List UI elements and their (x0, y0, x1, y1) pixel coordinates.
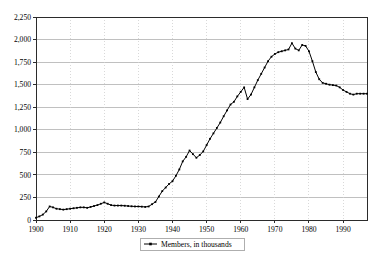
series-data-point (363, 93, 365, 95)
series-data-point (107, 203, 109, 205)
series-data-point (213, 132, 215, 134)
series-data-point (274, 53, 276, 55)
series-data-point (69, 208, 71, 210)
x-axis-tick-label: 1930 (131, 225, 146, 234)
y-axis-tick-label: 2,250 (14, 13, 31, 22)
series-data-point (134, 206, 136, 208)
series-data-point (148, 206, 150, 208)
series-data-point (59, 208, 61, 210)
series-data-point (216, 127, 218, 129)
series-data-point (161, 190, 163, 192)
series-data-point (223, 115, 225, 117)
series-data-point (253, 86, 255, 88)
x-axis-tick-label: 1980 (301, 225, 316, 234)
series-data-point (250, 94, 252, 96)
series-data-point (240, 91, 242, 93)
series-data-point (315, 71, 317, 73)
series-data-point (192, 153, 194, 155)
series-data-point (342, 89, 344, 91)
x-axis-tick-label: 1970 (267, 225, 282, 234)
series-data-point (366, 93, 368, 95)
series-data-point (178, 169, 180, 171)
series-data-point (100, 203, 102, 205)
series-data-point (206, 144, 208, 146)
series-data-point (308, 50, 310, 52)
series-data-point (49, 206, 51, 208)
series-data-point (39, 215, 41, 217)
series-data-point (352, 94, 354, 96)
series-data-point (236, 96, 238, 98)
series-data-point (155, 201, 157, 203)
series-data-point (144, 206, 146, 208)
y-axis-tick-label: 750 (20, 148, 32, 157)
series-data-point (264, 67, 266, 69)
series-data-point (56, 208, 58, 210)
series-data-point (45, 211, 47, 213)
series-data-point (305, 45, 307, 47)
series-data-point (346, 91, 348, 93)
series-data-point (325, 83, 327, 85)
x-axis-tick-label: 1950 (199, 225, 214, 234)
series-data-point (141, 206, 143, 208)
series-data-point (356, 93, 358, 95)
series-data-point (131, 205, 133, 207)
series-data-point (117, 205, 119, 207)
y-axis-tick-label: 500 (20, 171, 32, 180)
series-data-point (291, 42, 293, 44)
series-data-point (124, 205, 126, 207)
series-data-point (90, 206, 92, 208)
series-data-point (329, 84, 331, 86)
series-data-point (230, 104, 232, 106)
series-data-point (151, 203, 153, 205)
series-data-point (195, 157, 197, 159)
series-data-point (281, 50, 283, 52)
series-data-point (83, 206, 85, 208)
series-data-point (175, 175, 177, 177)
series-data-point (165, 187, 167, 189)
series-data-point (127, 205, 129, 207)
series-data-point (76, 207, 78, 209)
x-axis-ticks: 1900191019201930194019501960197019801990 (28, 220, 351, 234)
series-data-point (257, 79, 259, 81)
series-data-point (202, 151, 204, 153)
series-data-point (189, 150, 191, 152)
series-data-point (298, 49, 300, 51)
series-data-point (301, 44, 303, 46)
y-axis-tick-label: 1,250 (14, 103, 31, 112)
series-data-point (267, 60, 269, 62)
y-axis-tick-label: 1,750 (14, 58, 31, 67)
series-data-point (172, 180, 174, 182)
series-data-point (66, 208, 68, 210)
y-axis-tick-label: 2,000 (14, 35, 31, 44)
series-data-point (226, 109, 228, 111)
series-data-point (288, 49, 290, 51)
series-data-point (199, 154, 201, 156)
series-data-point (233, 101, 235, 103)
series-data-point (114, 205, 116, 207)
y-axis-tick-label: 250 (20, 193, 32, 202)
line-chart: 02505007501,0001,2501,5001,7502,0002,250… (0, 0, 380, 259)
x-axis-tick-label: 1960 (233, 225, 248, 234)
series-data-point (182, 160, 184, 162)
series-data-point (62, 209, 64, 211)
x-axis-tick-label: 1900 (28, 225, 43, 234)
series-data-point (312, 60, 314, 62)
series-data-point (137, 206, 139, 208)
series-data-point (277, 51, 279, 53)
series-data-point (335, 85, 337, 87)
series-data-point (42, 214, 44, 216)
series-data-point (318, 78, 320, 80)
series-data-point (97, 204, 99, 206)
chart-figure: 02505007501,0001,2501,5001,7502,0002,250… (0, 0, 380, 259)
series-data-point (332, 84, 334, 86)
series-data-point (219, 122, 221, 124)
series-data-point (339, 86, 341, 88)
series-data-point (260, 73, 262, 75)
y-axis-ticks: 02505007501,0001,2501,5001,7502,0002,250 (14, 13, 36, 225)
series-data-point (86, 207, 88, 209)
y-axis-tick-label: 1,000 (14, 125, 31, 134)
series-data-point (247, 98, 249, 100)
series-data-point (103, 202, 105, 204)
plot-background (36, 17, 367, 220)
series-data-point (168, 183, 170, 185)
